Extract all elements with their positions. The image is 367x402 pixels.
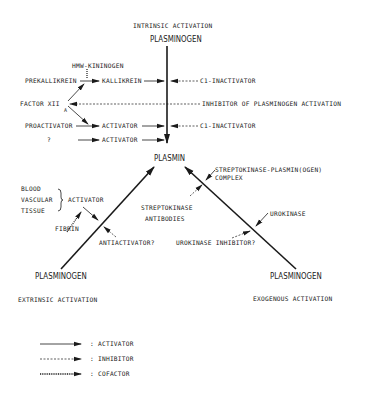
antiactivator-label: ANTIACTIVATOR? (99, 240, 155, 246)
activator-label-2: ACTIVATOR (102, 137, 138, 143)
sk-antibodies-label-1: STREPTOKINASE (141, 205, 193, 211)
activator-label-1: ACTIVATOR (102, 123, 138, 129)
factor-xii-label: FACTOR XII (20, 101, 60, 107)
exogenous-arrow (185, 167, 296, 269)
blood-label: BLOOD (21, 186, 41, 192)
sk-complex-label-1: STREPTOKINASE-PLASMIN(OGEN) (215, 167, 322, 173)
fibrin-label: FIBRIN (55, 226, 79, 232)
c1-inactivator-label-1: C1-INACTIVATOR (200, 78, 256, 84)
unknown-label: ? (47, 137, 51, 143)
plasmin-label: PLASMIN (154, 154, 185, 163)
exogenous-heading: EXOGENOUS ACTIVATION (253, 296, 333, 302)
legend-cofactor-label: : COFACTOR (90, 371, 130, 377)
tissue-label: TISSUE (21, 208, 45, 214)
plasminogen-top: PLASMINOGEN (150, 35, 202, 44)
urokinase-label: UROKINASE (270, 211, 306, 217)
c1-inactivator-label-2: C1-INACTIVATOR (200, 123, 256, 129)
legend-activator-label: : ACTIVATOR (90, 341, 134, 347)
diagram-arrows (0, 0, 367, 402)
intrinsic-heading: INTRINSIC ACTIVATION (133, 23, 213, 29)
extrinsic-arrow (61, 167, 154, 269)
inhibitor-plasminogen-activation-label: INHIBITOR OF PLASMINOGEN ACTIVATION (202, 101, 341, 107)
prekallikrein-label: PREKALLIKREIN (25, 78, 77, 84)
factor-xii-subscript: A (64, 108, 67, 113)
hmw-kininogen-label: HMW-KININOGEN (72, 63, 124, 69)
legend-inhibitor-label: : INHIBITOR (90, 356, 134, 362)
vascular-label: VASCULAR (21, 197, 53, 203)
kallikrein-label: KALLIKREIN (102, 78, 142, 84)
urokinase-inhibitor-label: UROKINASE INHIBITOR? (176, 240, 256, 246)
sk-complex-label-2: COMPLEX (215, 175, 243, 181)
sk-antibodies-label-2: ANTIBODIES (145, 216, 185, 222)
extrinsic-heading: EXTRINSIC ACTIVATION (18, 297, 98, 303)
plasminogen-right: PLASMINOGEN (270, 272, 322, 281)
proactivator-label: PROACTIVATOR (25, 123, 73, 129)
extrinsic-activator-label: ACTIVATOR (68, 197, 104, 203)
plasminogen-left: PLASMINOGEN (35, 272, 87, 281)
